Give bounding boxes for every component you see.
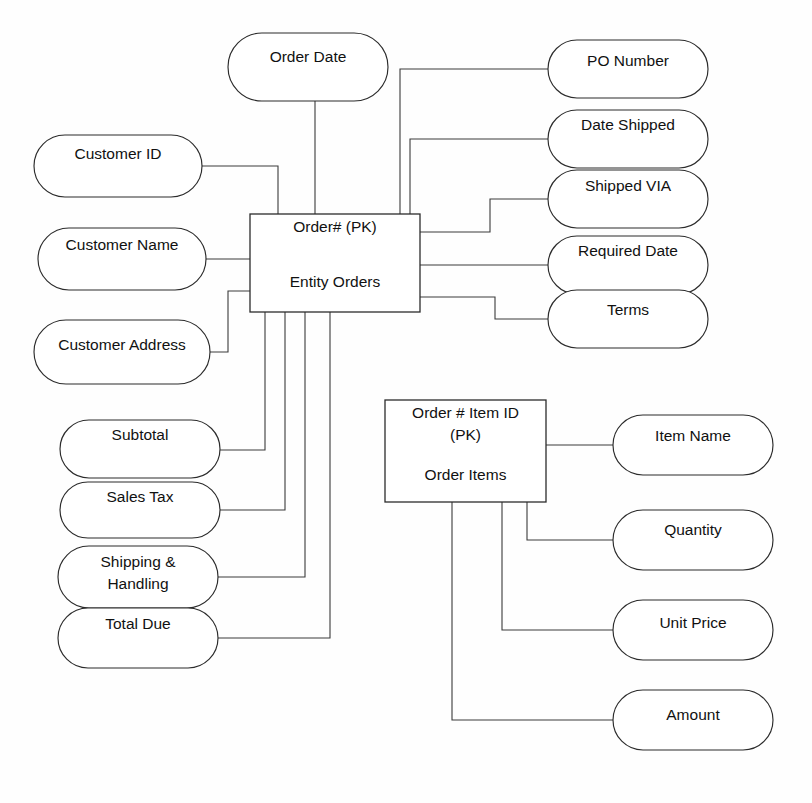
connector-line <box>527 502 613 540</box>
attribute-oval <box>613 415 773 475</box>
entity-orders[interactable]: Order# (PK)Entity Orders <box>250 214 420 312</box>
attr-terms[interactable]: Terms <box>548 290 708 348</box>
entity-layer: Order# (PK)Entity OrdersOrder # Item ID(… <box>250 214 546 502</box>
connector-line <box>420 297 548 319</box>
attr-amount[interactable]: Amount <box>613 690 773 750</box>
attr-date-shipped[interactable]: Date Shipped <box>548 110 708 168</box>
connector-line <box>210 291 250 352</box>
attribute-oval <box>548 290 708 348</box>
connector-line <box>218 312 305 577</box>
attr-unit-price[interactable]: Unit Price <box>613 600 773 660</box>
attr-quantity[interactable]: Quantity <box>613 510 773 570</box>
entity-name-label: Entity Orders <box>290 273 381 290</box>
attribute-label: Order Date <box>270 48 347 65</box>
attr-customer-address[interactable]: Customer Address <box>34 320 210 384</box>
attr-shipped-via[interactable]: Shipped VIA <box>548 170 708 228</box>
attribute-label: Total Due <box>105 615 170 632</box>
attr-po-number[interactable]: PO Number <box>548 40 708 98</box>
attribute-label: Customer ID <box>75 145 162 162</box>
attr-shipping-handling[interactable]: Shipping &Handling <box>58 546 218 608</box>
attr-order-date[interactable]: Order Date <box>228 33 388 101</box>
attr-sales-tax[interactable]: Sales Tax <box>60 482 220 538</box>
attr-customer-id[interactable]: Customer ID <box>34 135 202 197</box>
attribute-label: Shipped VIA <box>585 177 672 194</box>
attribute-label: Customer Address <box>58 336 186 353</box>
attribute-label: Unit Price <box>659 614 726 631</box>
connector-line <box>410 139 548 214</box>
attribute-layer: Order DateCustomer IDCustomer NameCustom… <box>34 33 773 750</box>
connector-line <box>202 166 278 214</box>
connector-line <box>220 312 285 510</box>
connector-line <box>452 502 613 720</box>
connector-layer <box>202 69 613 720</box>
attr-total-due[interactable]: Total Due <box>58 608 218 668</box>
entity-order-items[interactable]: Order # Item ID(PK)Order Items <box>385 400 546 502</box>
entity-key-label: Order# (PK) <box>293 218 377 235</box>
connector-line <box>400 69 548 214</box>
entity-key-label-line2: (PK) <box>450 426 481 443</box>
attribute-label: Subtotal <box>112 426 169 443</box>
attr-item-name[interactable]: Item Name <box>613 415 773 475</box>
er-diagram-canvas: Order DateCustomer IDCustomer NameCustom… <box>0 0 812 803</box>
attribute-label: Shipping & <box>101 553 177 570</box>
attribute-label: Customer Name <box>66 236 179 253</box>
attr-customer-name[interactable]: Customer Name <box>38 228 206 290</box>
attribute-label: Quantity <box>664 521 722 538</box>
attribute-label: Terms <box>607 301 649 318</box>
connector-line <box>420 199 548 232</box>
attr-required-date[interactable]: Required Date <box>548 236 708 294</box>
attribute-oval <box>228 33 388 101</box>
entity-key-label: Order # Item ID <box>412 404 519 421</box>
attribute-label: Sales Tax <box>107 488 174 505</box>
connector-line <box>218 312 330 638</box>
attribute-oval <box>613 510 773 570</box>
attribute-label: Item Name <box>655 427 731 444</box>
connector-line <box>502 502 613 630</box>
attr-subtotal[interactable]: Subtotal <box>60 420 220 478</box>
attribute-label-line2: Handling <box>107 575 168 592</box>
attribute-label: PO Number <box>587 52 669 69</box>
attribute-label: Amount <box>666 706 720 723</box>
connector-line <box>220 312 265 450</box>
er-diagram-svg: Order DateCustomer IDCustomer NameCustom… <box>0 0 812 803</box>
attribute-label: Required Date <box>578 242 678 259</box>
attribute-label: Date Shipped <box>581 116 675 133</box>
entity-name-label: Order Items <box>425 466 507 483</box>
